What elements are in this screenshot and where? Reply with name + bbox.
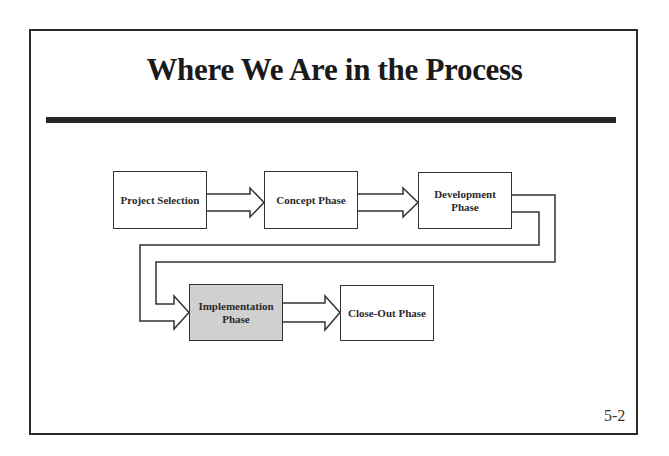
step-label: Implementation Phase: [196, 300, 276, 326]
step-concept-phase: Concept Phase: [264, 171, 358, 229]
step-close-out-phase: Close-Out Phase: [340, 285, 434, 341]
arrow-right-icon: [206, 188, 264, 217]
step-label: Close-Out Phase: [348, 307, 426, 320]
step-label: Concept Phase: [276, 194, 345, 207]
step-implementation-phase: Implementation Phase: [189, 284, 283, 341]
step-label: Project Selection: [121, 194, 200, 207]
page-number: 5-2: [604, 407, 625, 425]
step-development-phase: Development Phase: [418, 172, 512, 229]
step-label: Development Phase: [434, 188, 496, 214]
step-project-selection: Project Selection: [113, 171, 207, 229]
arrow-right-icon: [282, 296, 340, 330]
arrow-right-icon: [358, 188, 418, 217]
